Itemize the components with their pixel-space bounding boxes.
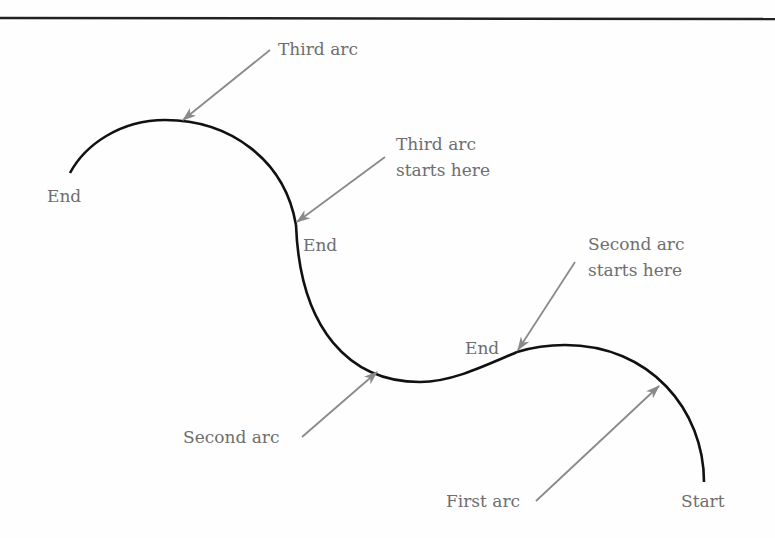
label-second-arc-starts-line1: Second arc <box>588 231 684 257</box>
label-second-arc-starts-here: Second arc starts here <box>588 231 684 283</box>
arrow-first-arc <box>536 386 659 501</box>
label-third-arc-starts-here: Third arc starts here <box>396 131 490 183</box>
arrow-third-arc <box>183 50 270 120</box>
top-rule <box>0 18 775 19</box>
label-third-arc-starts-line2: starts here <box>396 157 490 183</box>
arrow-second-arc-starts-here <box>518 262 575 350</box>
label-third-arc: Third arc <box>278 38 358 60</box>
label-third-arc-starts-line1: Third arc <box>396 131 490 157</box>
label-second-arc: Second arc <box>183 426 279 448</box>
third-arc-curve <box>70 120 296 225</box>
first-arc-curve <box>517 345 704 482</box>
label-first-arc: First arc <box>446 490 520 512</box>
arc-diagram: Third arc Third arc starts here End End … <box>0 0 775 538</box>
label-start: Start <box>681 490 725 512</box>
arrow-second-arc <box>302 372 377 437</box>
arrow-third-arc-starts-here <box>297 157 385 222</box>
label-second-arc-starts-line2: starts here <box>588 257 684 283</box>
label-end-left: End <box>47 185 81 207</box>
label-end-middle: End <box>303 234 337 256</box>
label-end-lower: End <box>465 337 499 359</box>
